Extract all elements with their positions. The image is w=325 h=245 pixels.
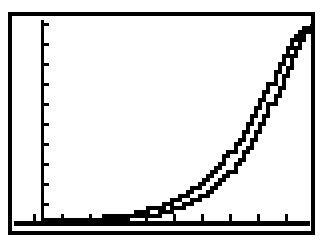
- graph-canvas: [0, 0, 325, 245]
- calculator-graph-screenshot: [0, 0, 325, 245]
